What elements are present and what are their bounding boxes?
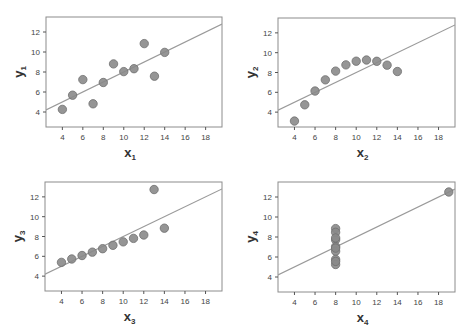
data-point [68,91,76,99]
x-tick-label: 6 [81,133,86,142]
data-point [301,101,309,109]
y-tick-label: 8 [36,68,41,77]
data-point [321,76,329,84]
data-point [89,100,97,108]
x-tick-label: 10 [352,133,361,142]
anscombe-quartet-figure: 46810121416184681012x1y1 468101214161846… [0,0,475,335]
data-point [383,61,391,69]
plot-frame [278,18,455,127]
y-tick-label: 12 [263,29,272,38]
data-point [109,60,117,68]
data-point [58,105,66,113]
data-point [129,234,137,242]
x-tick-label: 18 [201,297,210,306]
y-tick-label: 12 [30,193,39,202]
data-point [109,241,117,249]
panel-4: 46810121416184681012x4y4 [243,182,455,327]
data-point [445,188,453,196]
y-axis-label: y2 [243,66,260,78]
data-point [57,258,65,266]
y-tick-label: 6 [268,88,273,97]
y-tick-label: 12 [31,28,40,37]
data-point [98,244,106,252]
y-tick-label: 4 [268,273,273,282]
data-point [331,67,339,75]
y-tick-label: 10 [263,49,272,58]
x-tick-label: 12 [139,297,148,306]
data-point [331,257,339,265]
y-axis-label: y1 [11,66,28,78]
x-axis-label: x1 [124,145,136,162]
data-point [331,244,339,252]
data-point [140,231,148,239]
data-point [150,185,158,193]
y-tick-label: 10 [30,213,39,222]
data-point [140,39,148,47]
x-tick-label: 10 [352,298,361,307]
data-point [373,57,381,65]
x-tick-label: 16 [414,298,423,307]
data-point [119,238,127,246]
y-tick-label: 12 [263,193,272,202]
data-point [342,61,350,69]
x-tick-label: 14 [160,297,169,306]
x-tick-label: 12 [372,133,381,142]
x-tick-label: 16 [181,133,190,142]
data-point [150,72,158,80]
x-tick-label: 10 [119,133,128,142]
y-tick-label: 10 [263,213,272,222]
data-point [160,48,168,56]
data-point [393,67,401,75]
panel-3: 46810121416184681012x3y3 [10,182,222,326]
y-axis-label: y4 [243,231,260,243]
x-tick-label: 16 [414,133,423,142]
data-point [78,251,86,259]
y-tick-label: 8 [268,69,273,78]
y-tick-label: 6 [35,252,40,261]
y-tick-label: 4 [36,108,41,117]
data-point [311,87,319,95]
y-tick-label: 6 [268,253,273,262]
x-tick-label: 6 [80,297,85,306]
x-tick-label: 8 [333,133,338,142]
x-tick-label: 4 [59,297,64,306]
data-point [99,78,107,86]
x-tick-label: 10 [119,297,128,306]
x-tick-label: 4 [292,133,297,142]
y-tick-label: 4 [35,272,40,281]
x-tick-label: 14 [160,133,169,142]
data-point [68,255,76,263]
x-tick-label: 16 [181,297,190,306]
data-point [120,67,128,75]
regression-line [278,25,455,110]
x-tick-label: 4 [60,133,65,142]
x-tick-label: 12 [372,298,381,307]
plot-frame [278,182,455,292]
y-tick-label: 10 [31,48,40,57]
panel-2: 46810121416184681012x2y2 [243,18,455,162]
data-point [88,248,96,256]
y-axis-label: y3 [10,230,27,242]
data-point [290,117,298,125]
x-tick-label: 8 [101,133,106,142]
x-tick-label: 8 [333,298,338,307]
regression-line [278,189,455,275]
x-tick-label: 12 [140,133,149,142]
x-tick-label: 18 [201,133,210,142]
x-axis-label: x4 [357,310,369,327]
y-tick-label: 8 [268,233,273,242]
data-point [160,224,168,232]
x-tick-label: 4 [292,298,297,307]
x-tick-label: 6 [313,298,318,307]
y-tick-label: 8 [35,233,40,242]
x-axis-label: x2 [357,145,369,162]
y-tick-label: 4 [268,108,273,117]
x-tick-label: 8 [100,297,105,306]
x-axis-label: x3 [124,309,136,326]
data-point [362,56,370,64]
x-tick-label: 6 [313,133,318,142]
data-point [331,234,339,242]
x-tick-label: 18 [434,298,443,307]
panel-1: 46810121416184681012x1y1 [11,17,222,162]
x-tick-label: 14 [393,133,402,142]
